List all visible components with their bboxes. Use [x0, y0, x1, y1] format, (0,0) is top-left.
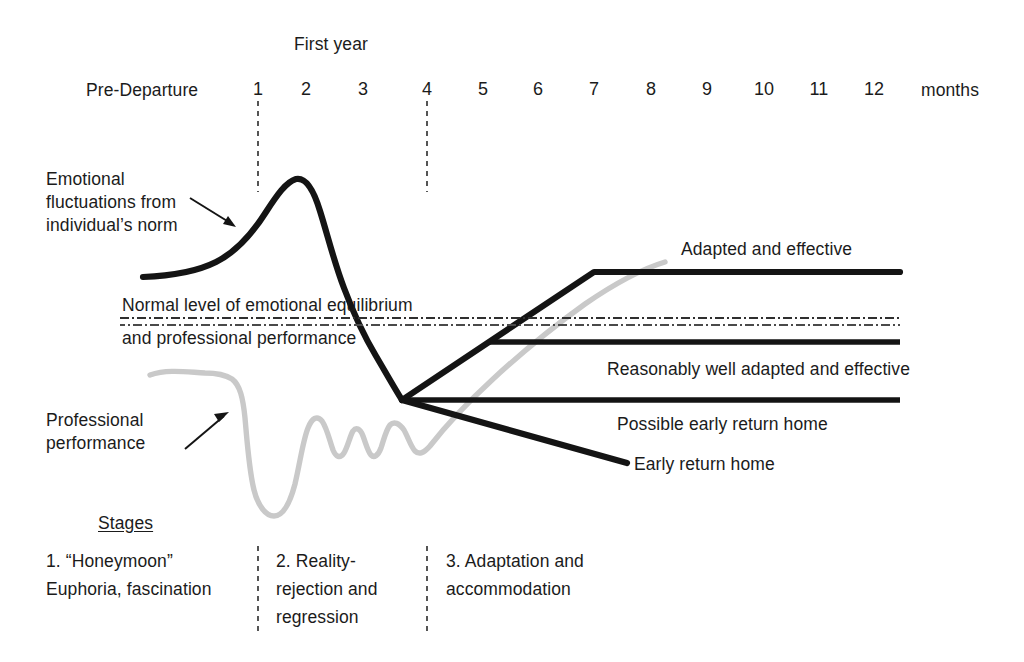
stage-1-line-2: Euphoria, fascination [46, 578, 212, 601]
stage-2-line-2: rejection and [276, 578, 378, 601]
stage-3-line-1: 3. Adaptation and [446, 550, 584, 573]
annotation-possible-early-return: Possible early return home [617, 413, 828, 436]
annotation-reasonably-well-adapted: Reasonably well adapted and effective [607, 358, 910, 381]
annotation-emotional-line-3: individual’s norm [46, 214, 178, 237]
annotation-early-return-home: Early return home [634, 453, 775, 476]
annotation-emotional-line-2: fluctuations from [46, 191, 176, 214]
stage-2-line-1: 2. Reality- [276, 550, 356, 573]
stage-3-line-2: accommodation [446, 578, 571, 601]
annotation-performance-line-1: Professional [46, 409, 144, 432]
annotation-performance-line-2: performance [46, 432, 145, 455]
annotation-adapted-and-effective: Adapted and effective [681, 238, 852, 261]
branch-adapted-and-effective [402, 272, 900, 400]
annotation-equilibrium-line-2: and professional performance [122, 327, 356, 350]
annotation-emotional-line-1: Emotional [46, 168, 125, 191]
stage-2-line-3: regression [276, 606, 359, 629]
culture-shock-diagram: First year Pre-Departure 1 2 3 4 5 6 7 8… [0, 0, 1024, 662]
branch-early-return-home [402, 400, 627, 463]
annotation-arrow-performance [185, 412, 229, 449]
stages-heading: Stages [98, 512, 153, 535]
stage-1-line-1: 1. “Honeymoon” [46, 550, 173, 573]
emotional-curve [143, 179, 402, 400]
annotation-arrow-emotional [190, 198, 236, 227]
annotation-equilibrium-line-1: Normal level of emotional equilibrium [122, 294, 413, 317]
